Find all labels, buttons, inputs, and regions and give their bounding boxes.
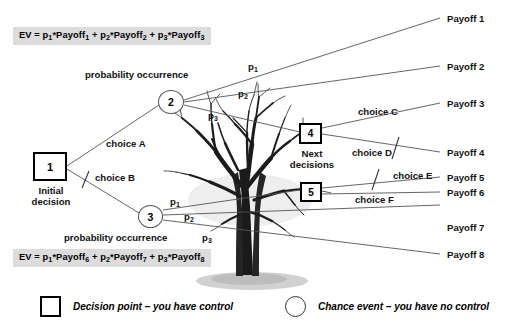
square-node-icon: [40, 296, 61, 317]
formula-bottom-term-3: *Payoff: [168, 252, 201, 262]
rejection-slash-choice-d: [392, 137, 399, 159]
node-2-chance-event[interactable]: 2: [158, 90, 184, 114]
formula-top-ev: EV = p: [19, 30, 48, 40]
probability-label-p1-bottom: p1: [170, 196, 180, 208]
p3-bottom-sub: 3: [208, 237, 212, 244]
formula-bottom-ev: EV = p: [19, 252, 48, 262]
formula-bottom-plus-1: + p: [89, 252, 106, 262]
formula-top-term-3: *Payoff: [168, 30, 201, 40]
branch-p2-payoff2: [184, 66, 440, 102]
legend: Decision point – you have control Chance…: [0, 292, 510, 330]
payoff-label-1: Payoff 1: [447, 13, 484, 24]
payoff-label-3: Payoff 3: [447, 98, 484, 109]
formula-top-plus-1: + p: [89, 30, 106, 40]
p1-bottom-sub: 1: [176, 201, 180, 208]
formula-bottom-term-2: *Payoff: [110, 252, 143, 262]
decision-tree-diagram: EV = p1*Payoff1 + p2*Payoff2 + p3*Payoff…: [0, 0, 510, 330]
node-1-initial-decision[interactable]: 1: [33, 152, 67, 181]
rejection-slash-choice-e: [372, 169, 379, 190]
expected-value-formula-bottom: EV = p1*Payoff6 + p2*Payoff7 + p3*Payoff…: [13, 249, 211, 267]
rejection-slash-choice-b: [82, 171, 89, 188]
formula-bottom-plus-2: + p: [147, 252, 164, 262]
next-decisions-line1: Next: [302, 148, 323, 159]
branch-choice-a: [67, 105, 159, 166]
probability-label-p3-top: p3: [208, 110, 218, 122]
payoff-label-4: Payoff 4: [447, 147, 484, 158]
probability-label-p2-top: p2: [238, 88, 248, 100]
formula-top-term-1: *Payoff: [52, 30, 85, 40]
probability-occurrence-label-bottom: probability occurrence: [64, 232, 167, 243]
choice-b-label: choice B: [95, 172, 135, 183]
choice-a-label: choice A: [106, 138, 146, 149]
legend-item-chance-event: Chance event – you have no control: [285, 296, 489, 317]
choice-f-label: choice F: [355, 194, 394, 205]
formula-top-sub-6: 3: [200, 33, 204, 42]
choice-e-label: choice E: [393, 170, 432, 181]
payoff-label-7: Payoff 7: [447, 222, 484, 233]
node-4-next-decision[interactable]: 4: [299, 123, 322, 144]
legend-decision-point-text: Decision point – you have control: [73, 301, 233, 312]
node-5-next-decision[interactable]: 5: [300, 182, 322, 202]
probability-occurrence-label-top: probability occurrence: [85, 69, 188, 80]
probability-label-p2-bottom: p2: [184, 211, 194, 223]
node-1-caption-line2: decision: [32, 196, 71, 207]
formula-bottom-term-1: *Payoff: [52, 252, 85, 262]
probability-label-p3-bottom: p3: [202, 232, 212, 244]
node-4-5-caption: Nextdecisions: [286, 148, 338, 170]
node-1-caption: Initialdecision: [31, 185, 71, 207]
p2-top-sub: 2: [244, 93, 248, 100]
legend-chance-event-text: Chance event – you have no control: [318, 301, 489, 312]
probability-label-p1-top: p1: [248, 61, 258, 73]
p1-top-sub: 1: [254, 66, 258, 73]
legend-item-decision-point: Decision point – you have control: [40, 296, 233, 317]
payoff-label-8: Payoff 8: [447, 249, 484, 260]
next-decisions-line2: decisions: [290, 159, 334, 170]
payoff-label-2: Payoff 2: [447, 61, 484, 72]
branch-p1-payoff1: [184, 18, 440, 100]
formula-bottom-sub-6: 8: [200, 255, 204, 264]
diagram-vector-layer: [0, 0, 510, 330]
node-1-caption-line1: Initial: [38, 185, 63, 196]
p3-top-sub: 3: [214, 115, 218, 122]
choice-c-label: choice C: [358, 106, 398, 117]
circle-node-icon: [285, 296, 306, 317]
p2-bottom-sub: 2: [190, 216, 194, 223]
formula-top-term-2: *Payoff: [110, 30, 143, 40]
expected-value-formula-top: EV = p1*Payoff1 + p2*Payoff2 + p3*Payoff…: [13, 27, 211, 45]
choice-d-label: choice D: [352, 147, 392, 158]
payoff-label-6: Payoff 6: [447, 187, 484, 198]
node-3-chance-event[interactable]: 3: [138, 205, 163, 228]
payoff-label-5: Payoff 5: [447, 172, 484, 183]
formula-top-plus-2: + p: [147, 30, 164, 40]
